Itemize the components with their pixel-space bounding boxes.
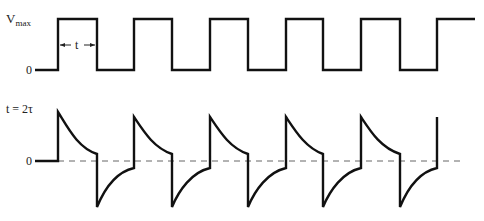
differentiated-output-trace bbox=[35, 112, 437, 207]
time-constant-label: t = 2τ bbox=[6, 102, 33, 116]
pulse-width-label: t bbox=[75, 38, 79, 52]
top-zero-label: 0 bbox=[26, 63, 32, 77]
pulse-width-annotation: t bbox=[60, 38, 95, 52]
bottom-zero-label: 0 bbox=[26, 154, 32, 168]
square-wave-trace bbox=[35, 19, 475, 70]
vmax-label: Vmax bbox=[6, 11, 31, 28]
waveform-diagram: Vmax 0 t t = 2τ 0 bbox=[0, 0, 484, 221]
